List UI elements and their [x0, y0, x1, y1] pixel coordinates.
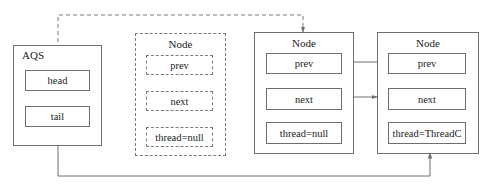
- node-dummy-prev-field: prev: [146, 55, 213, 75]
- aqs-label: AQS: [22, 49, 44, 61]
- aqs-head-label: head: [48, 75, 68, 86]
- node-2-title: Node: [255, 37, 353, 49]
- aqs-tail-field: tail: [25, 106, 90, 127]
- node-2-next-field: next: [266, 88, 342, 110]
- node-3-thread-field: thread=ThreadC: [388, 122, 466, 144]
- node-dummy-next-label: next: [170, 96, 188, 107]
- node-3-title: Node: [378, 37, 478, 49]
- node-3-next-label: next: [418, 94, 436, 105]
- aqs-tail-label: tail: [51, 111, 64, 122]
- node-3-prev-field: prev: [388, 53, 466, 74]
- node-2-prev-label: prev: [295, 58, 314, 69]
- node-2-thread-label: thread=null: [280, 128, 329, 139]
- node-2-prev-field: prev: [266, 53, 342, 74]
- node-dummy-title: Node: [136, 38, 225, 50]
- node-dummy-next-field: next: [146, 91, 213, 111]
- node-2-next-label: next: [295, 94, 313, 105]
- node-dummy-thread-label: thread=null: [155, 132, 204, 143]
- node-3-box: Node prev next thread=ThreadC: [377, 32, 479, 154]
- node-dummy-prev-label: prev: [170, 60, 189, 71]
- node-2-box: Node prev next thread=null: [254, 32, 354, 154]
- node-3-next-field: next: [388, 88, 466, 110]
- tail-pointer-line: [58, 126, 430, 176]
- node-dummy-box: Node prev next thread=null: [135, 33, 226, 156]
- node-3-thread-label: thread=ThreadC: [393, 128, 462, 139]
- node-dummy-thread-field: thread=null: [146, 127, 213, 147]
- node-2-thread-field: thread=null: [266, 122, 342, 144]
- node-3-prev-label: prev: [418, 58, 437, 69]
- aqs-box: AQS head tail: [13, 45, 102, 146]
- aqs-head-field: head: [25, 70, 90, 91]
